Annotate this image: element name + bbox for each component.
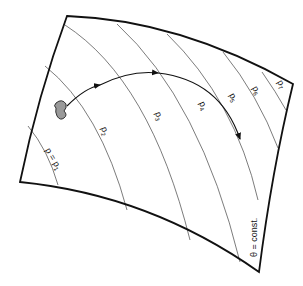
isobar-label-p2: p2 xyxy=(98,125,111,137)
svg-text:p5: p5 xyxy=(226,91,240,104)
isobar-label-p6: p6 xyxy=(249,84,263,97)
isobar-label-p1: p = p1 xyxy=(42,146,64,173)
isobar-label-p5: p5 xyxy=(226,91,240,104)
isobar-label-p4: p4 xyxy=(196,100,210,113)
trajectory-arrow-mid xyxy=(100,73,158,86)
svg-text:p4: p4 xyxy=(196,100,210,113)
svg-text:θ = const.: θ = const. xyxy=(249,218,259,257)
fluid-parcel-icon xyxy=(55,101,67,119)
svg-text:p2: p2 xyxy=(98,125,111,137)
isobar-p3 xyxy=(65,25,190,240)
svg-text:p3: p3 xyxy=(152,110,165,122)
isobar-p2 xyxy=(45,66,127,210)
svg-text:p = p1: p = p1 xyxy=(42,146,64,173)
isobar-p4 xyxy=(117,24,240,262)
isentropic-surface-diagram: p = p1 p2 p3 p4 p5 p6 p7 θ = const. xyxy=(0,0,303,286)
surface-label: θ = const. xyxy=(249,218,259,257)
isobar-label-p3: p3 xyxy=(152,110,165,122)
trajectory-arrow xyxy=(67,85,100,106)
svg-text:p6: p6 xyxy=(249,84,263,97)
